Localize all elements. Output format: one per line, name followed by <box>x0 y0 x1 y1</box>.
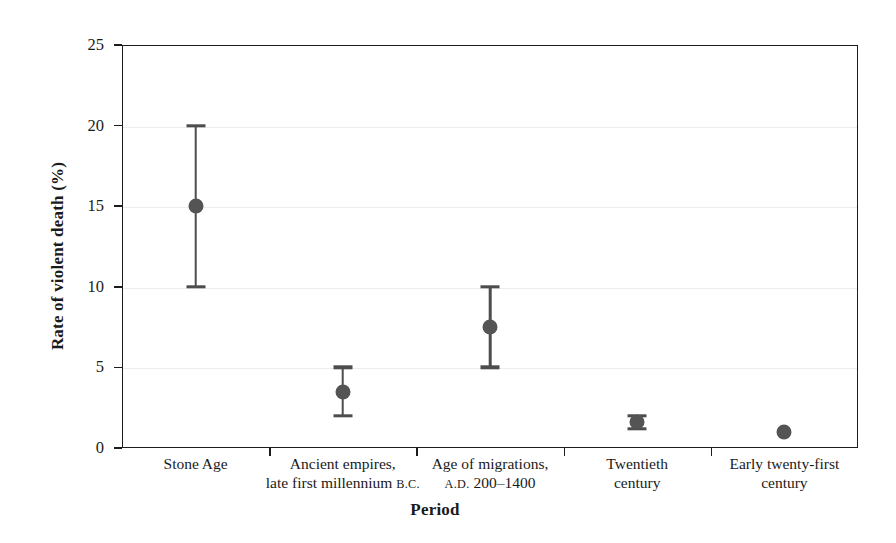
y-axis-tick-label: 10 <box>44 279 104 296</box>
gridline <box>123 207 857 208</box>
error-bar-cap <box>186 124 205 127</box>
y-axis-tick <box>114 367 122 369</box>
x-axis-title: Period <box>0 500 896 520</box>
y-axis-tick-label: 20 <box>44 117 104 134</box>
data-point-marker <box>777 424 792 439</box>
y-axis-tick <box>114 125 122 127</box>
era-abbreviation: A.D. <box>445 477 470 491</box>
y-axis-tick-label: 15 <box>44 198 104 215</box>
error-bar-cap <box>481 285 500 288</box>
data-point-marker <box>483 320 498 335</box>
error-bar-cap <box>481 366 500 369</box>
y-axis-tick <box>114 44 122 46</box>
data-point-marker <box>630 415 645 430</box>
error-bar-cap <box>333 366 352 369</box>
y-axis-tick-label: 25 <box>44 37 104 54</box>
y-axis-tick <box>114 447 122 449</box>
x-axis-category-label: Early twenty-firstcentury <box>693 455 876 493</box>
x-axis-title-text: Period <box>410 500 459 519</box>
gridline <box>123 127 857 128</box>
y-axis-tick-label: 5 <box>44 359 104 376</box>
y-axis-title: Rate of violent death (%) <box>48 56 68 456</box>
y-axis-tick <box>114 286 122 288</box>
error-bar-cap <box>333 414 352 417</box>
category-label-line: Early twenty-first <box>693 455 876 474</box>
category-label-line: century <box>693 474 876 493</box>
data-point-marker <box>335 384 350 399</box>
data-point-marker <box>188 199 203 214</box>
violent-death-rate-chart: Rate of violent death (%) 0510152025 Sto… <box>0 0 896 543</box>
error-bar-cap <box>186 285 205 288</box>
plot-area <box>122 45 858 448</box>
y-axis-tick-label: 0 <box>44 440 104 457</box>
y-axis-tick <box>114 205 122 207</box>
